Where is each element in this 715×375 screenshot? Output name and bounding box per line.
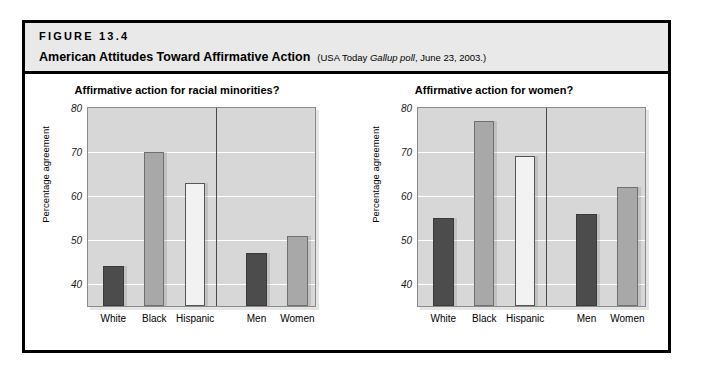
bar-white (103, 266, 123, 306)
y-axis-tick: 80 (71, 103, 82, 114)
x-axis-label-women: Women (610, 313, 644, 324)
x-axis-label-hispanic: Hispanic (506, 313, 544, 324)
x-axis-label-women: Women (280, 313, 314, 324)
x-axis-label-men: Men (247, 313, 266, 324)
gridline (418, 152, 645, 153)
chart-women: Affirmative action for women? Percentage… (359, 74, 679, 353)
group-divider (546, 108, 547, 306)
y-axis-tick: 40 (71, 279, 82, 290)
x-axis-label-black: Black (472, 313, 496, 324)
bar-men (576, 214, 596, 306)
source-italic: Gallup poll (370, 52, 415, 63)
gridline (88, 152, 315, 153)
y-axis-tick: 60 (401, 191, 412, 202)
plot-area: 4050607080WhiteBlackHispanicMenWomen (417, 107, 646, 307)
charts-area: Affirmative action for racial minorities… (25, 74, 668, 350)
bar-black (474, 121, 494, 306)
y-axis-tick: 60 (71, 191, 82, 202)
y-axis-tick: 50 (71, 235, 82, 246)
figure-title-line: American Attitudes Toward Affirmative Ac… (39, 48, 668, 65)
gridline (418, 108, 645, 109)
y-axis-label: Percentage agreement (40, 110, 51, 240)
figure-header: FIGURE 13.4 American Attitudes Toward Af… (25, 23, 668, 74)
figure-source: (USA Today Gallup poll, June 23, 2003.) (317, 52, 486, 63)
y-axis-tick: 50 (401, 235, 412, 246)
figure-number: FIGURE 13.4 (39, 29, 668, 44)
x-axis-label-white: White (101, 313, 127, 324)
bar-black (144, 152, 164, 306)
source-prefix: (USA Today (317, 52, 370, 63)
bar-hispanic (185, 183, 205, 306)
y-axis-tick: 70 (401, 147, 412, 158)
y-axis-tick: 80 (401, 103, 412, 114)
x-axis-label-men: Men (577, 313, 596, 324)
bar-white (433, 218, 453, 306)
bar-hispanic (515, 156, 535, 306)
chart-racial-minorities: Affirmative action for racial minorities… (29, 74, 349, 353)
figure-title: American Attitudes Toward Affirmative Ac… (39, 50, 310, 64)
plot-area: 4050607080WhiteBlackHispanicMenWomen (87, 107, 316, 307)
chart-title: Affirmative action for women? (359, 84, 679, 96)
bar-women (287, 236, 307, 306)
gridline (88, 108, 315, 109)
x-axis-label-black: Black (142, 313, 166, 324)
x-axis-label-white: White (431, 313, 457, 324)
source-suffix: , June 23, 2003.) (415, 52, 486, 63)
bar-women (617, 187, 637, 306)
bar-men (246, 253, 266, 306)
figure-frame: FIGURE 13.4 American Attitudes Toward Af… (22, 20, 671, 353)
x-axis-label-hispanic: Hispanic (176, 313, 214, 324)
y-axis-tick: 70 (71, 147, 82, 158)
chart-title: Affirmative action for racial minorities… (29, 84, 349, 96)
group-divider (216, 108, 217, 306)
y-axis-tick: 40 (401, 279, 412, 290)
y-axis-label: Percentage agreement (370, 110, 381, 240)
